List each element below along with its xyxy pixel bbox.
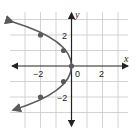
grid — [10, 12, 128, 128]
coordinate-plane: x y −2 0 2 2 −2 — [0, 0, 138, 136]
parabola-curve — [13, 22, 72, 66]
y-axis-label: y — [74, 9, 80, 20]
y-tick-2: 2 — [62, 31, 67, 41]
x-axis-label: x — [123, 53, 129, 64]
x-tick-2: 2 — [99, 69, 104, 79]
y-tick-neg2: −2 — [57, 93, 67, 103]
x-tick-0: 0 — [75, 69, 80, 79]
x-tick-neg2: −2 — [33, 69, 43, 79]
